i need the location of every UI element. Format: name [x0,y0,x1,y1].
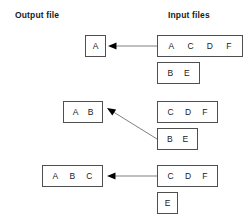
input-record-letter: F [197,108,213,117]
input-record-letter: C [162,172,179,181]
input-record-letter: C [162,108,179,117]
output-record-letter: C [81,172,98,181]
input-record-letter: F [220,42,238,51]
input-files-header: Input files [168,10,210,20]
merge-diagram: Output file Input files AACDFBEABCDFBEAB… [0,0,251,222]
input-record-letter: B [162,135,178,144]
input-file-box-row-1-1: ACDF [157,35,243,57]
merge-arrow-row-2 [107,108,157,139]
arrow-head-icon [107,172,116,179]
output-record-letter: B [83,108,98,117]
output-file-box-row-3: ABC [42,165,103,187]
input-file-box-row-3-1: CDF [157,165,218,187]
input-record-letter: B [162,69,179,78]
arrow-head-icon [108,42,117,49]
input-record-letter: F [197,172,213,181]
input-record-letter: E [178,135,194,144]
output-file-box-row-2: AB [63,101,103,123]
output-record-letter: A [68,108,83,117]
input-record-letter: D [179,172,196,181]
input-file-box-row-2-2: BE [157,128,198,150]
merge-arrow-row-1 [108,42,157,49]
input-record-letter: D [179,108,196,117]
arrow-head-icon [107,108,116,116]
output-record-letter: B [64,172,81,181]
output-file-box-row-1: A [85,35,106,57]
output-record-letter: A [47,172,64,181]
input-record-letter: A [162,42,181,51]
output-record-letter: A [90,42,101,51]
input-record-letter: E [179,69,196,78]
output-file-header: Output file [15,10,59,20]
merge-arrow-row-3 [107,172,157,179]
input-record-letter: D [200,42,219,51]
input-file-box-row-1-2: BE [157,62,200,84]
input-file-box-row-2-1: CDF [157,101,218,123]
input-record-letter: C [181,42,200,51]
input-record-letter: E [162,199,173,208]
input-file-box-row-3-2: E [157,192,178,214]
arrow-line [114,112,157,139]
